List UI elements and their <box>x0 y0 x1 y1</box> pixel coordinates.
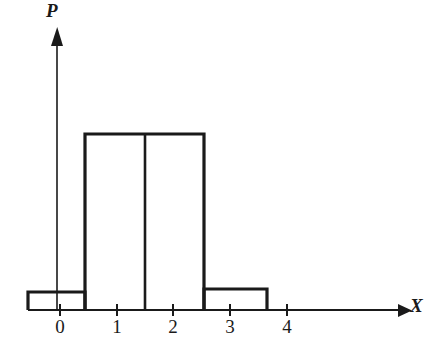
probability-distribution-figure: P X 0 1 2 3 4 <box>0 0 428 350</box>
x-tick-label-4: 4 <box>272 316 302 338</box>
bar-outline-3 <box>204 289 267 310</box>
y-axis <box>51 27 63 310</box>
histogram-bars <box>28 134 267 310</box>
x-tick-label-3: 3 <box>215 316 245 338</box>
plot-canvas <box>0 0 428 350</box>
y-axis-arrowhead <box>51 27 63 46</box>
x-tick-label-0: 0 <box>45 316 75 338</box>
x-tick-label-2: 2 <box>158 316 188 338</box>
y-axis-label: P <box>46 1 58 20</box>
x-tick-label-1: 1 <box>102 316 132 338</box>
x-axis-label: X <box>410 296 423 315</box>
